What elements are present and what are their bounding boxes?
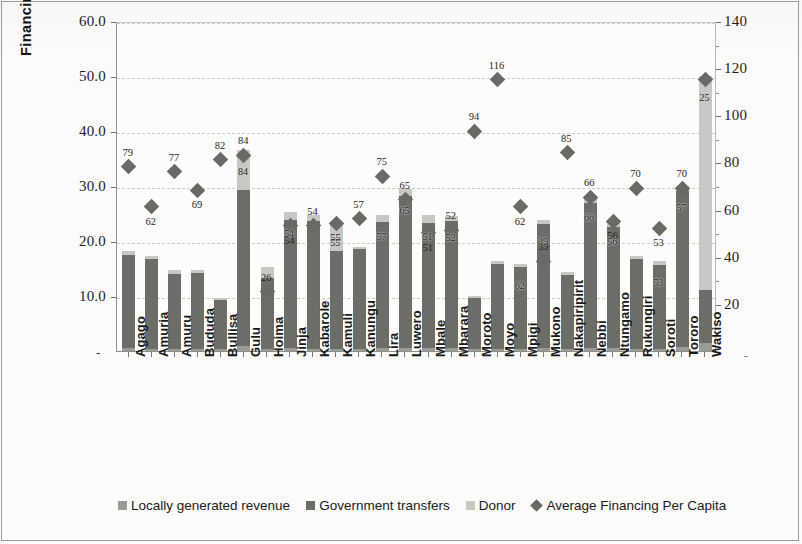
marker-value-label: 52 [446, 210, 457, 221]
bar-segment-donor [353, 247, 366, 249]
bar-segment-donor [630, 256, 643, 259]
bar-segment-donor [122, 251, 135, 255]
x-axis-label-nebbi: Nebbi [594, 320, 609, 357]
y2-axis-tick-label: 100 [724, 107, 747, 124]
y2-axis-minor-tick [716, 46, 719, 47]
marker-avg-financing-per-capita [652, 220, 668, 236]
marker-value-label: 62 [146, 216, 157, 227]
marker-avg-financing-per-capita [167, 164, 183, 180]
marker-value-label: 70 [630, 168, 641, 179]
bar-segment-donor [468, 296, 481, 298]
bar-value-label: 53 [653, 277, 663, 288]
gridline [117, 78, 715, 79]
marker-value-label: 57 [353, 199, 364, 210]
x-axis-tick [612, 352, 613, 357]
bar-value-label: 62 [515, 280, 525, 291]
y2-axis-minor-tick [716, 234, 719, 235]
y2-axis-minor-tick [716, 187, 719, 188]
y-axis-zero-label: - [96, 345, 100, 361]
bar-segment-donor [214, 298, 227, 300]
x-axis-label-mbarara: Mbarara [456, 306, 471, 357]
y2-axis-tick-label: 20 [724, 296, 739, 313]
gridline [117, 23, 715, 24]
bar-segment-donor [537, 220, 550, 224]
y2-axis-minor-tick [716, 140, 719, 141]
bar-segment-donor [653, 261, 666, 264]
x-axis-label-mbale: Mbale [433, 320, 448, 357]
y2-axis-minor-tick [716, 93, 719, 94]
legend-label: Government transfers [319, 498, 450, 513]
legend-swatch-icon [466, 501, 475, 510]
x-axis-label-gulu: Gulu [248, 327, 263, 357]
x-axis-tick [658, 352, 659, 357]
x-axis-tick [704, 352, 705, 357]
x-axis-label-jinja: Jinja [294, 327, 309, 357]
legend-swatch-icon [306, 501, 315, 510]
x-axis-label-amuria: Amuria [156, 312, 171, 357]
x-axis-tick [474, 352, 475, 357]
bar-value-label: 51 [423, 231, 433, 242]
marker-avg-financing-per-capita [144, 199, 160, 215]
x-axis-label-moroto: Moroto [479, 312, 494, 357]
legend-diamond-icon [531, 499, 544, 512]
x-axis-tick [635, 352, 636, 357]
x-axis-label-ntungamo: Ntungamo [617, 292, 632, 357]
bar-wakiso [699, 76, 712, 351]
x-axis-tick [566, 352, 567, 357]
x-axis-label-wakiso: Wakiso [709, 311, 724, 357]
y-axis-tick-label: 30.0 [0, 178, 106, 195]
legend-item-locally-generated-revenue[interactable]: Locally generated revenue [118, 498, 290, 513]
bar-segment-donor [191, 270, 204, 273]
x-axis-tick [266, 352, 267, 357]
bar-value-label: 54 [284, 228, 294, 239]
bar-segment-donor [699, 76, 712, 290]
marker-value-label: 53 [653, 237, 664, 248]
x-axis-tick [335, 352, 336, 357]
bar-value-label: 57 [376, 231, 386, 242]
x-axis-tick [681, 352, 682, 357]
y-axis-tick-label: 50.0 [0, 68, 106, 85]
marker-avg-financing-per-capita [490, 72, 506, 88]
x-axis-tick [520, 352, 521, 357]
legend-item-average-financing-per-capita[interactable]: Average Financing Per Capita [531, 498, 726, 513]
x-axis-label-lira: Lira [386, 333, 401, 357]
legend-swatch-icon [118, 501, 127, 510]
x-axis-label-soroti: Soroti [663, 319, 678, 357]
x-axis-label-moyo: Moyo [502, 323, 517, 357]
y-axis-tick-label: 10.0 [0, 288, 106, 305]
y2-axis-tick-mark [716, 69, 721, 70]
y2-axis-tick-label: 120 [724, 60, 747, 77]
bar-segment-donor [422, 215, 435, 223]
x-axis-tick [243, 352, 244, 357]
x-axis-tick [451, 352, 452, 357]
gridline [117, 188, 715, 189]
y2-axis-tick-mark [716, 305, 721, 306]
x-axis-label-bududa: Bududa [202, 308, 217, 357]
marker-value-label: 65 [399, 180, 410, 191]
bar-segment-donor [514, 264, 527, 267]
marker-avg-financing-per-capita [121, 159, 137, 175]
marker-value-label: 69 [192, 199, 203, 210]
legend-item-government-transfers[interactable]: Government transfers [306, 498, 450, 513]
legend-item-donor[interactable]: Donor [466, 498, 516, 513]
y2-axis-tick-label: 140 [724, 13, 747, 30]
x-axis-label-nakapiripirit: Nakapiripirit [571, 280, 586, 357]
marker-value-label: 79 [123, 147, 134, 158]
bar-value-label: 57 [676, 202, 686, 213]
bar-value-label: 66 [584, 212, 594, 223]
marker-value-label: 62 [515, 216, 526, 227]
y2-axis-tick-mark [716, 116, 721, 117]
bar-value-label: 39 [538, 236, 548, 247]
marker-avg-financing-per-capita [375, 168, 391, 184]
gridline [117, 133, 715, 134]
gridline [117, 243, 715, 244]
y2-axis-tick-mark [716, 163, 721, 164]
x-axis-tick [543, 352, 544, 357]
marker-value-label: 54 [307, 206, 318, 217]
y2-axis-tick-mark [716, 22, 721, 23]
y2-axis-tick-label: 80 [724, 154, 739, 171]
bar-value-label: 25 [699, 92, 709, 103]
x-axis-tick [128, 352, 129, 357]
x-axis-tick [381, 352, 382, 357]
x-axis-tick [589, 352, 590, 357]
